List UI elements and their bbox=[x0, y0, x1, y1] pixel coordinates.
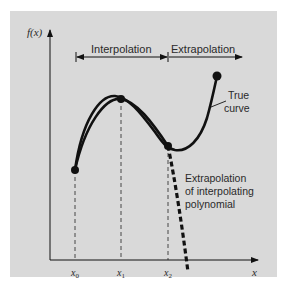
true-curve-label-line2: curve bbox=[224, 102, 250, 114]
true-curve-label-line1: True bbox=[228, 89, 249, 101]
extrapolation-annotation-line3: polynomial bbox=[185, 198, 235, 210]
interpolating-polynomial bbox=[75, 99, 168, 170]
tick-label-x1: x1 bbox=[116, 267, 125, 280]
tick-label-x2: x2 bbox=[163, 267, 172, 280]
true-curve bbox=[75, 76, 217, 170]
data-point-x0 bbox=[71, 166, 79, 174]
x-axis-label: x bbox=[251, 266, 257, 278]
extrapolation-annotation-line2: of interpolating bbox=[185, 185, 254, 197]
data-point-x1 bbox=[117, 95, 125, 103]
data-point-x2 bbox=[164, 142, 172, 150]
tick-label-x0: x0 bbox=[70, 267, 79, 280]
true-curve-endpoint bbox=[213, 72, 222, 81]
extrapolation-label: Extrapolation bbox=[171, 43, 235, 55]
y-axis-label: f(x) bbox=[27, 26, 43, 39]
interpolation-diagram: f(x) x Interpolation Extrapolation True … bbox=[0, 0, 289, 298]
extrapolation-annotation-line1: Extrapolation bbox=[185, 172, 246, 184]
interpolation-label: Interpolation bbox=[91, 43, 152, 55]
